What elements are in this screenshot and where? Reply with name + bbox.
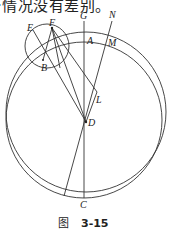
line-ed [33, 30, 86, 122]
geometry-diagram [0, 0, 171, 232]
outer-circle [6, 32, 166, 192]
caption-prefix: 图 [58, 217, 69, 230]
point-d [85, 121, 87, 123]
label-g: G [80, 10, 87, 21]
label-a: A [87, 35, 93, 46]
label-l: L [96, 94, 102, 105]
label-m: M [108, 37, 116, 48]
figure-caption: 图3-15 [58, 214, 109, 230]
label-d: D [88, 117, 95, 128]
label-e: E [27, 22, 33, 33]
caption-number: 3-15 [81, 217, 109, 230]
label-b: B [41, 62, 47, 73]
point-b [42, 59, 44, 61]
line-nd [64, 21, 112, 196]
label-f: F [49, 17, 55, 28]
label-n: N [109, 9, 116, 20]
label-c: C [80, 199, 87, 210]
